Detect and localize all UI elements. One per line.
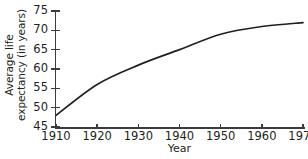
x-tick-label: 1970 <box>288 131 308 143</box>
y-axis-title-line-1: Average life <box>4 34 15 95</box>
chart-figure: Average life expectancy (in years) 45505… <box>0 0 308 159</box>
y-tick-label: 50 <box>33 102 48 114</box>
y-tick-label: 75 <box>33 5 48 17</box>
plot-area: 45505560657075 1910192019301940195019601… <box>56 11 303 127</box>
line-series-plot <box>56 11 303 127</box>
x-tick-label: 1960 <box>247 131 276 143</box>
x-tick-label: 1940 <box>165 131 194 143</box>
y-axis-title: Average life expectancy (in years) <box>0 0 34 130</box>
y-tick-label: 55 <box>33 83 48 95</box>
line-series-path <box>56 23 303 116</box>
x-tick-label: 1950 <box>206 131 235 143</box>
y-tick-label: 70 <box>33 25 48 37</box>
x-tick-label: 1930 <box>124 131 153 143</box>
y-tick-label: 65 <box>33 44 48 56</box>
x-tick-label: 1920 <box>83 131 112 143</box>
y-tick-label: 60 <box>33 63 48 75</box>
y-axis-title-line-2: expectancy (in years) <box>16 9 27 121</box>
x-tick-label: 1910 <box>41 131 70 143</box>
x-axis-title: Year <box>56 143 303 155</box>
